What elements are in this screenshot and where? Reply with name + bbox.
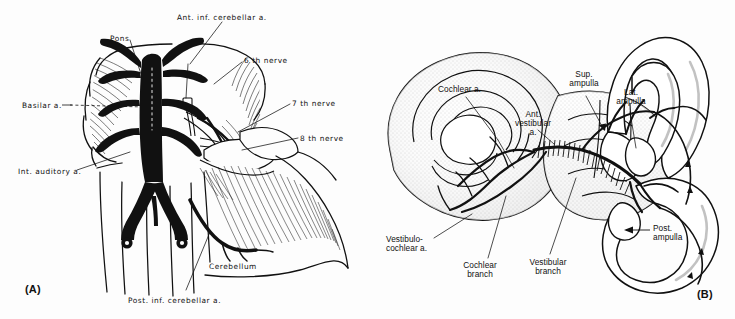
anatomy-figure: Ant. inf. cerebellar a. Pons 6 th nerve … — [0, 0, 735, 319]
leader-post-inf-cerebellar — [186, 232, 210, 290]
label-lat-ampulla: Lat. ampulla — [609, 88, 653, 106]
label-post-inf-cerebellar-a: Post. inf. cerebellar a. — [128, 297, 221, 305]
panel-b-tag: (B) — [697, 288, 713, 300]
post-inf-cerebellar-artery — [190, 200, 256, 251]
label-7th-nerve: 7 th nerve — [292, 100, 336, 108]
leader-vestibulocochlear-a — [434, 214, 472, 238]
cerebellum-lobes — [200, 128, 298, 176]
label-vestibular-branch: Vestibular branch — [520, 258, 576, 276]
medulla-outline — [97, 163, 210, 296]
label-8th-nerve: 8 th nerve — [300, 135, 344, 143]
vertebral-ring-lumen — [125, 241, 184, 245]
label-vestibulocochlear-a: Vestibulo- cochlear a. — [386, 235, 427, 253]
label-post-ampulla: Post. ampulla — [653, 224, 682, 242]
leader-int-auditory — [77, 152, 130, 170]
panel-b: Cochlear a. Sup. ampulla Lat. ampulla An… — [368, 0, 735, 319]
panel-a-illustration — [0, 0, 368, 319]
label-ant-inf-cerebellar-a: Ant. inf. cerebellar a. — [177, 14, 267, 22]
label-cochlear-branch: Cochlear branch — [454, 261, 506, 279]
panel-a-tag: (A) — [25, 283, 41, 295]
cochlea-duct — [441, 115, 496, 164]
leader-6th-nerve — [214, 62, 242, 84]
label-int-auditory-a: Int. auditory a. — [18, 168, 81, 176]
label-cerebellum: Cerebellum — [209, 263, 257, 271]
cerebellum-folia — [206, 166, 340, 252]
label-basilar-a: Basilar a. — [22, 102, 62, 110]
panel-a: Ant. inf. cerebellar a. Pons 6 th nerve … — [0, 0, 368, 319]
basilar-artery-tree — [95, 38, 208, 249]
label-pons: Pons — [110, 35, 129, 43]
label-6th-nerve: 6 th nerve — [244, 57, 288, 65]
label-sup-ampulla: Sup. ampulla — [561, 70, 607, 88]
label-ant-vestibular-a: Ant. vestibular a. — [507, 110, 559, 137]
label-cochlear-a: Cochlear a. — [438, 85, 481, 94]
